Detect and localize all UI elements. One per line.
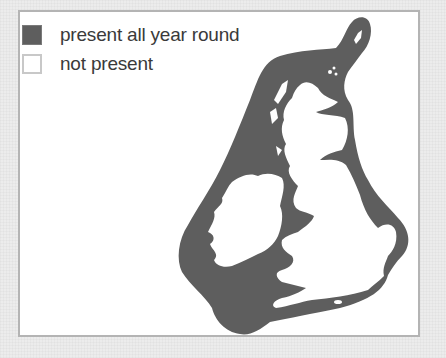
orkney-island [333, 67, 336, 70]
legend-label: present all year round [60, 24, 239, 46]
legend-label: not present [60, 53, 153, 75]
orkney-island [328, 70, 332, 74]
orkney-island [335, 73, 338, 76]
swatch-present-icon [22, 25, 42, 45]
swatch-not-present-icon [22, 54, 42, 74]
legend-item-present: present all year round [22, 22, 239, 48]
isle-of-wight [334, 300, 342, 304]
legend: present all year round not present [22, 22, 239, 80]
legend-item-not-present: not present [22, 51, 239, 77]
